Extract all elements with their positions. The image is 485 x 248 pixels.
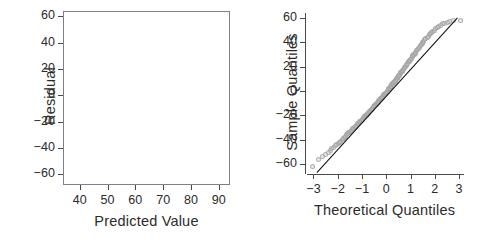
residual-x-tick (135, 185, 136, 190)
residual-y-tick-label: −40 (33, 140, 55, 154)
qq-x-tick-label: 2 (431, 182, 438, 196)
residual-x-tick (219, 185, 220, 190)
residual-x-tick (108, 185, 109, 190)
qq-x-axis-title: Theoretical Quantiles (314, 202, 455, 218)
residual-x-tick-label: 40 (73, 193, 87, 207)
data-point (310, 164, 315, 169)
residual-x-tick-label: 70 (156, 193, 170, 207)
data-point (458, 18, 463, 23)
residual-x-tick-label: 60 (128, 193, 142, 207)
qq-x-tick-label: 0 (383, 182, 390, 196)
residual-x-tick-label: 50 (100, 193, 114, 207)
residual-x-tick (163, 185, 164, 190)
residual-x-tick-label: 90 (212, 193, 226, 207)
qq-x-tick-label: −1 (355, 182, 369, 196)
residual-plot-frame (63, 11, 230, 185)
residual-x-tick (80, 185, 81, 190)
qq-reference-line (317, 17, 459, 173)
residual-x-tick-label: 80 (184, 193, 198, 207)
qq-x-axis-line (307, 174, 464, 175)
qq-x-tick-label: 1 (407, 182, 414, 196)
residual-y-tick-label: −60 (33, 166, 55, 180)
qq-y-axis-title: Sample Quantiles (284, 17, 300, 167)
qq-plot-area (283, 8, 483, 180)
residual-x-tick (191, 185, 192, 190)
qq-y-axis-line (305, 13, 306, 174)
residual-plot-panel: −60−40−200204060 405060708090 Residual P… (0, 0, 243, 248)
qq-x-tick-label: −3 (306, 182, 320, 196)
residual-y-axis-title: Residual (42, 51, 58, 141)
qq-x-tick-label: −2 (331, 182, 345, 196)
residual-y-tick-label: 40 (41, 35, 55, 49)
residual-x-axis-title: Predicted Value (94, 213, 198, 229)
qq-plot-panel: −60−40−200204060 −3−2−10123 Sample Quant… (243, 0, 485, 248)
regression-diagnostics-figure: −60−40−200204060 405060708090 Residual P… (0, 0, 485, 248)
residual-y-tick-label: 60 (41, 8, 55, 22)
qq-x-tick-label: 3 (456, 182, 463, 196)
